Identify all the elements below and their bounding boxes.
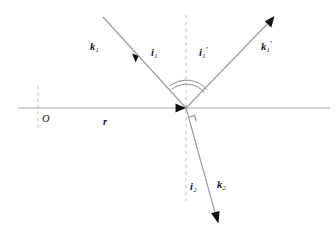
label-refracted-angle-subscript: 2 — [193, 186, 196, 193]
label-incident-angle: i1 — [151, 48, 157, 59]
reflected-ray — [186, 19, 272, 108]
label-origin-point: O — [42, 114, 50, 125]
label-reflected-vector-prime: ′ — [270, 39, 272, 49]
label-incident-angle-subscript: 1 — [154, 52, 157, 59]
label-reflected-vector-base: k — [261, 41, 266, 52]
label-incident-vector-base: k — [90, 41, 95, 52]
label-incident-vector: k1 — [90, 42, 99, 53]
optics-ray-diagram: k1 i1 i1′ k1′ i2 k2 O r — [0, 0, 336, 237]
label-refracted-angle: i2 — [190, 182, 196, 193]
label-refracted-vector-subscript: 2 — [223, 184, 226, 191]
label-refracted-vector-base: k — [217, 179, 222, 190]
label-interface-vector-base: r — [103, 116, 107, 127]
angle-arc-inner — [172, 84, 204, 92]
reflected-ray-arrowhead — [265, 16, 275, 28]
label-reflected-angle: i1′ — [199, 48, 207, 59]
angle-arc-outer — [170, 80, 208, 90]
label-interface-vector: r — [103, 117, 107, 128]
diagram-canvas — [0, 0, 336, 237]
label-refracted-vector: k2 — [217, 180, 226, 191]
refracted-ray-arrowhead — [211, 211, 220, 224]
right-angle-mark — [189, 115, 196, 121]
interface-vector-arrowhead — [176, 104, 187, 113]
refracted-ray — [186, 108, 216, 216]
label-reflected-vector: k1′ — [261, 42, 272, 53]
label-incident-vector-subscript: 1 — [96, 46, 99, 53]
incident-ray — [103, 17, 186, 108]
